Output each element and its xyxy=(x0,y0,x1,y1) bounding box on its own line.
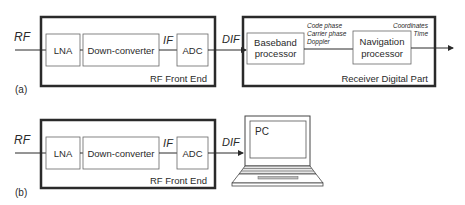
down-converter-label-b: Down-converter xyxy=(87,148,154,159)
dif-label: DIF xyxy=(222,33,241,45)
rf-front-end-title-b: RF Front End xyxy=(150,175,207,186)
rf-label-b: RF xyxy=(14,133,31,147)
baseband-label-line2: processor xyxy=(255,48,297,59)
doppler-label: Doppler xyxy=(307,38,331,46)
navigation-label-line2: processor xyxy=(361,48,403,59)
diagram-canvas: RF RF Front End LNA Down-converter IF AD… xyxy=(0,0,465,205)
laptop-pc-icon xyxy=(232,116,323,186)
label-a: (a) xyxy=(15,84,27,95)
carrier-phase-label: Carrier phase xyxy=(307,30,347,38)
lna-label-b: LNA xyxy=(54,148,73,159)
lna-label: LNA xyxy=(54,45,73,56)
rf-front-end-title: RF Front End xyxy=(150,73,207,84)
code-phase-label: Code phase xyxy=(307,22,342,30)
if-label-b: IF xyxy=(163,137,174,149)
receiver-digital-part-title: Receiver Digital Part xyxy=(341,73,428,84)
adc-label: ADC xyxy=(182,45,202,56)
if-label: IF xyxy=(163,34,174,46)
label-b: (b) xyxy=(15,187,27,198)
dif-label-b: DIF xyxy=(222,136,241,148)
rf-label: RF xyxy=(14,30,31,44)
time-label: Time xyxy=(414,30,429,37)
diagram-b: RF RF Front End LNA Down-converter IF AD… xyxy=(14,116,323,198)
adc-label-b: ADC xyxy=(182,148,202,159)
diagram-a: RF RF Front End LNA Down-converter IF AD… xyxy=(14,17,453,95)
navigation-label-line1: Navigation xyxy=(360,36,405,47)
pc-label: PC xyxy=(255,126,269,137)
baseband-label-line1: Baseband xyxy=(254,37,297,48)
coordinates-label: Coordinates xyxy=(393,22,429,29)
down-converter-label: Down-converter xyxy=(87,45,154,56)
